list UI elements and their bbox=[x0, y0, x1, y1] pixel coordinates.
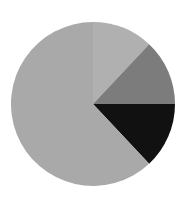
pie-slices bbox=[11, 22, 175, 186]
pie-chart bbox=[0, 0, 191, 198]
